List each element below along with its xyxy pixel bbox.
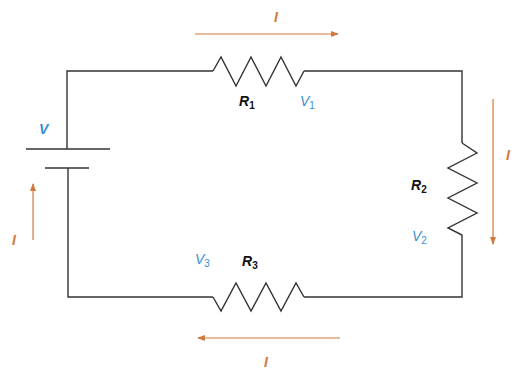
wire-top-left [67, 71, 213, 149]
current-label-bottom: I [264, 355, 268, 369]
current-label-left: I [12, 233, 16, 247]
voltage-label-v1: V1 [300, 94, 315, 111]
wire-bottom-left [68, 168, 213, 297]
resistor-r3 [213, 283, 304, 311]
resistor-label-r2: R2 [411, 178, 427, 195]
source-voltage-label: V [39, 122, 48, 136]
voltage-label-v2: V2 [412, 229, 427, 246]
wire-bottom-right [304, 235, 462, 297]
resistor-r2 [448, 143, 477, 235]
resistor-r1 [213, 57, 304, 86]
resistor-label-r3: R3 [242, 254, 258, 271]
circuit-diagram [0, 0, 523, 381]
current-label-right: I [506, 148, 510, 162]
current-label-top: I [274, 10, 278, 24]
wire-top-right [304, 71, 462, 143]
resistor-label-r1: R1 [239, 94, 255, 111]
voltage-label-v3: V3 [195, 252, 210, 269]
